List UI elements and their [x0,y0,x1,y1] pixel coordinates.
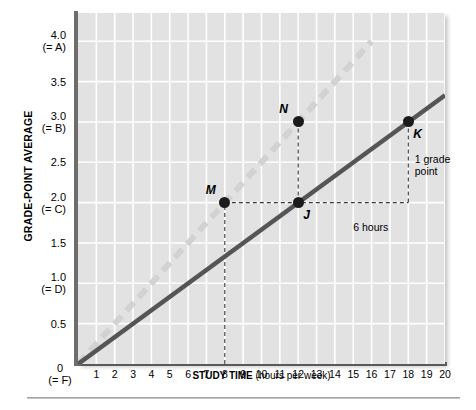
origin-tick-label: 0 (= F) [46,362,74,386]
y-tick-2: 2.0(= C) [2,191,66,215]
y-tick-3: 3.0(= B) [2,110,66,134]
rise-label-line1: 1 grade [415,153,451,166]
run-label: 6 hours [353,221,388,234]
y-tick-value: 2.0 [51,191,66,203]
x-axis-title-main: STUDY TIME [192,370,252,381]
y-tick-value: 3.0 [51,110,66,122]
y-tick-grade: (= B) [2,122,66,134]
y-tick-grade: (= A) [2,41,66,53]
data-point-j [293,197,304,208]
data-point-label-m: M [206,183,216,197]
data-point-label-n: N [279,102,288,116]
y-tick-4: 4.0(= A) [2,29,66,53]
y-tick-value: 1.0 [51,271,66,283]
y-tick-2-5: 2.5 [2,156,66,168]
rise-label-line2: point [415,165,438,178]
series-lines [78,13,445,364]
data-point-label-j: J [303,208,310,222]
x-axis-title-units: (hours per week) [256,370,331,381]
y-tick-3-5: 3.5 [2,76,66,88]
y-tick-value: 2.5 [51,156,66,168]
origin-value: 0 [57,362,63,374]
y-tick-value: 0.5 [51,318,66,330]
plot-area: MNJK 6 hours1 gradepoint [78,13,445,364]
y-tick-value: 4.0 [51,29,66,41]
chart-figure: GRADE-POINT AVERAGE 4.0(= A)3.53.0(= B)2… [0,0,476,410]
y-tick-grade: (= C) [2,203,66,215]
bottom-divider [27,397,460,399]
y-tick-1: 1.0(= D) [2,271,66,295]
x-axis-title: STUDY TIME (hours per week) [78,370,445,381]
origin-grade: (= F) [46,374,74,386]
y-tick-grade: (= D) [2,283,66,295]
y-tick-value: 3.5 [51,76,66,88]
y-tick-1-5: 1.5 [2,237,66,249]
y-tick-value: 1.5 [51,237,66,249]
data-point-label-k: K [413,127,422,141]
y-tick-0-5: 0.5 [2,318,66,330]
